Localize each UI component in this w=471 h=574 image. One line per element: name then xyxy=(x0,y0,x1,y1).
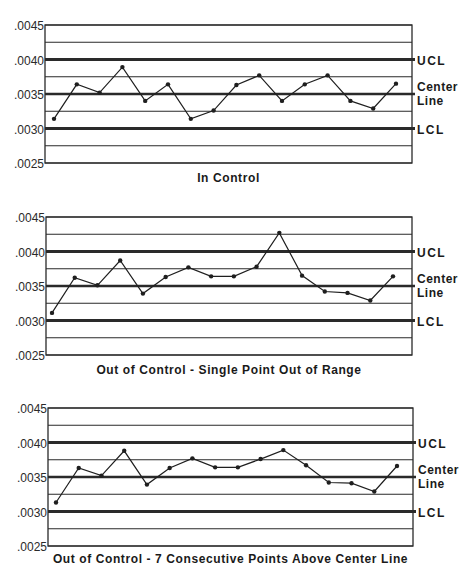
lcl-label: LCL xyxy=(417,123,445,137)
ucl-label: UCL xyxy=(417,54,446,68)
ucl-label: UCL xyxy=(418,437,447,451)
center-line-label: Line xyxy=(417,286,444,300)
data-point xyxy=(372,489,376,493)
data-point xyxy=(167,466,171,470)
data-point xyxy=(394,81,398,85)
center-line-label: Line xyxy=(418,477,445,491)
data-point xyxy=(345,291,349,295)
data-point xyxy=(141,291,145,295)
center-line-label: Center xyxy=(418,463,459,477)
chart-title: Out of Control - Single Point Out of Ran… xyxy=(96,363,361,377)
lcl-label: LCL xyxy=(417,315,445,329)
y-tick-label: .0025 xyxy=(17,540,47,554)
data-point xyxy=(395,464,399,468)
y-tick-label: .0025 xyxy=(14,157,44,171)
data-point xyxy=(303,82,307,86)
y-tick-label: .0040 xyxy=(15,246,45,260)
data-point xyxy=(327,480,331,484)
data-point xyxy=(391,274,395,278)
data-point xyxy=(186,265,190,269)
y-tick-label: .0030 xyxy=(17,506,47,520)
data-point xyxy=(163,275,167,279)
chart-seven-consecutive-above-center: .0045.0040.0035.0030.0025UCLCenterLineLC… xyxy=(17,402,459,566)
y-tick-label: .0040 xyxy=(17,437,47,451)
data-point xyxy=(143,99,147,103)
y-tick-label: .0030 xyxy=(15,315,45,329)
data-point xyxy=(50,311,54,315)
center-line-label: Center xyxy=(417,272,458,286)
data-point xyxy=(75,82,79,86)
y-tick-label: .0040 xyxy=(14,54,44,68)
chart-single-point-out-of-range: .0045.0040.0035.0030.0025UCLCenterLineLC… xyxy=(15,211,458,377)
ucl-label: UCL xyxy=(417,246,446,260)
data-point xyxy=(236,465,240,469)
data-point xyxy=(304,463,308,467)
y-tick-label: .0045 xyxy=(17,402,47,416)
y-tick-label: .0030 xyxy=(14,123,44,137)
data-point xyxy=(348,99,352,103)
data-series-line xyxy=(52,233,393,313)
data-point xyxy=(54,500,58,504)
data-point xyxy=(258,457,262,461)
data-point xyxy=(213,465,217,469)
y-tick-label: .0025 xyxy=(15,349,45,363)
lcl-label: LCL xyxy=(418,506,446,520)
data-point xyxy=(73,276,77,280)
chart-in-control: .0045.0040.0035.0030.0025UCLCenterLineLC… xyxy=(14,19,458,185)
center-line-label: Line xyxy=(417,94,444,108)
y-tick-label: .0035 xyxy=(14,88,44,102)
y-tick-label: .0035 xyxy=(15,280,45,294)
data-point xyxy=(118,258,122,262)
data-point xyxy=(371,106,375,110)
data-point xyxy=(145,482,149,486)
center-line-label: Center xyxy=(417,80,458,94)
data-point xyxy=(189,117,193,121)
data-point xyxy=(277,231,281,235)
data-point xyxy=(257,73,261,77)
data-point xyxy=(254,264,258,268)
data-point xyxy=(280,99,284,103)
control-charts: .0045.0040.0035.0030.0025UCLCenterLineLC… xyxy=(0,0,471,574)
data-point xyxy=(281,448,285,452)
data-point xyxy=(77,466,81,470)
data-point xyxy=(52,117,56,121)
data-point xyxy=(166,82,170,86)
data-point xyxy=(122,449,126,453)
y-tick-label: .0035 xyxy=(17,471,47,485)
chart-title: In Control xyxy=(197,171,260,185)
data-point xyxy=(232,274,236,278)
data-point xyxy=(234,83,238,87)
data-point xyxy=(368,298,372,302)
data-point xyxy=(211,108,215,112)
data-point xyxy=(325,73,329,77)
data-point xyxy=(349,481,353,485)
data-point xyxy=(300,273,304,277)
data-point xyxy=(97,90,101,94)
data-point xyxy=(323,289,327,293)
data-point xyxy=(120,65,124,69)
y-tick-label: .0045 xyxy=(15,211,45,225)
data-point xyxy=(99,473,103,477)
data-point xyxy=(95,283,99,287)
data-point xyxy=(209,274,213,278)
data-point xyxy=(190,456,194,460)
y-tick-label: .0045 xyxy=(14,19,44,33)
chart-title: Out of Control - 7 Consecutive Points Ab… xyxy=(53,552,408,566)
